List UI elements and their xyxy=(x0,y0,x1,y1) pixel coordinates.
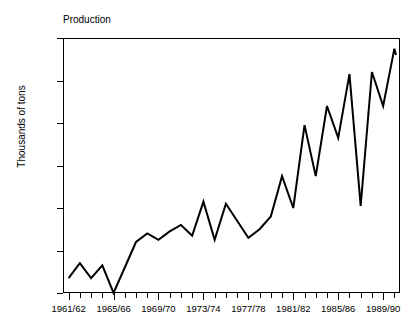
x-tick-mark xyxy=(271,293,272,298)
x-tick-label: 1973/74 xyxy=(186,303,220,314)
x-tick-mark xyxy=(158,293,159,300)
x-tick-mark xyxy=(305,293,306,298)
x-tick-mark xyxy=(372,293,373,298)
x-tick-mark xyxy=(316,293,317,298)
x-tick-label: 1977/78 xyxy=(231,303,265,314)
x-tick-mark xyxy=(91,293,92,298)
x-tick-mark xyxy=(226,293,227,298)
x-tick-label: 1989/90 xyxy=(366,303,400,314)
chart-title: Production xyxy=(63,14,111,25)
x-tick-mark xyxy=(394,293,395,298)
x-tick-mark xyxy=(203,293,204,300)
x-tick-mark xyxy=(147,293,148,298)
x-tick-mark xyxy=(237,293,238,298)
x-tick-label: 1981/82 xyxy=(276,303,310,314)
x-tick-mark xyxy=(192,293,193,298)
x-tick-mark xyxy=(260,293,261,298)
x-tick-label: 1961/62 xyxy=(51,303,85,314)
x-tick-label: 1985/86 xyxy=(321,303,355,314)
x-tick-mark xyxy=(215,293,216,298)
x-tick-mark xyxy=(170,293,171,298)
x-tick-mark xyxy=(114,293,115,300)
x-tick-mark xyxy=(293,293,294,300)
plot-frame xyxy=(63,38,400,293)
x-tick-mark xyxy=(338,293,339,300)
x-tick-mark xyxy=(383,293,384,300)
y-tick-mark xyxy=(57,293,63,294)
x-tick-mark xyxy=(102,293,103,298)
y-axis-label: Thousands of tons xyxy=(16,62,27,192)
x-tick-mark xyxy=(69,293,70,300)
x-tick-mark xyxy=(327,293,328,298)
x-tick-label: 1969/70 xyxy=(141,303,175,314)
x-tick-mark xyxy=(125,293,126,298)
x-tick-mark xyxy=(136,293,137,298)
x-tick-label: 1965/66 xyxy=(96,303,130,314)
x-tick-mark xyxy=(282,293,283,298)
x-tick-mark xyxy=(248,293,249,300)
x-tick-mark xyxy=(80,293,81,298)
x-tick-mark xyxy=(181,293,182,298)
x-tick-mark xyxy=(361,293,362,298)
x-tick-mark xyxy=(349,293,350,298)
chart-page: Production Thousands of tons 50709011013… xyxy=(0,0,418,332)
